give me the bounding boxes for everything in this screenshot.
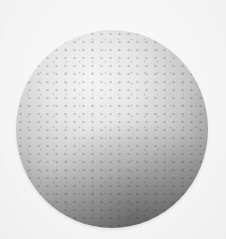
ball-shadow <box>16 30 208 228</box>
styrofoam-ball <box>16 30 208 228</box>
